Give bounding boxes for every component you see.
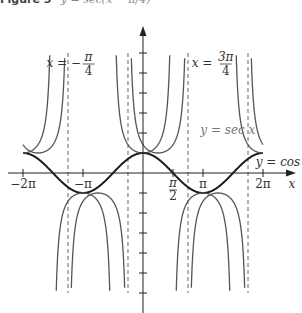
svg-text:4: 4	[85, 64, 93, 78]
x-tick-label: π	[168, 176, 178, 190]
x-axis-label: x	[289, 177, 296, 191]
asymptote-label: x = −π4	[47, 50, 95, 78]
curve-label: y = cos x	[255, 155, 302, 169]
asymptote-label: x = 3π4	[192, 50, 235, 78]
curve-label: y = sec x	[199, 123, 255, 137]
x-tick-label: −2π	[10, 177, 36, 191]
svg-text:x =: x =	[192, 56, 213, 70]
annotation-labels: −2π−ππ2π2πxy = sec xy = cos xx = −π4x = …	[10, 50, 302, 203]
graph-plot: −2π−ππ2π2πxy = sec xy = cos xx = −π4x = …	[0, 0, 302, 313]
svg-text:π: π	[84, 50, 94, 64]
x-tick-label: 2π	[255, 177, 271, 191]
svg-text:4: 4	[222, 64, 230, 78]
svg-text:x = −: x = −	[47, 56, 82, 70]
y-axis-arrow-icon	[140, 26, 147, 36]
svg-text:3π: 3π	[218, 50, 235, 64]
x-axis-arrow-icon	[286, 170, 296, 177]
x-tick-label: π	[199, 177, 207, 191]
svg-text:2: 2	[169, 189, 177, 203]
x-tick-label: −π	[74, 177, 92, 191]
